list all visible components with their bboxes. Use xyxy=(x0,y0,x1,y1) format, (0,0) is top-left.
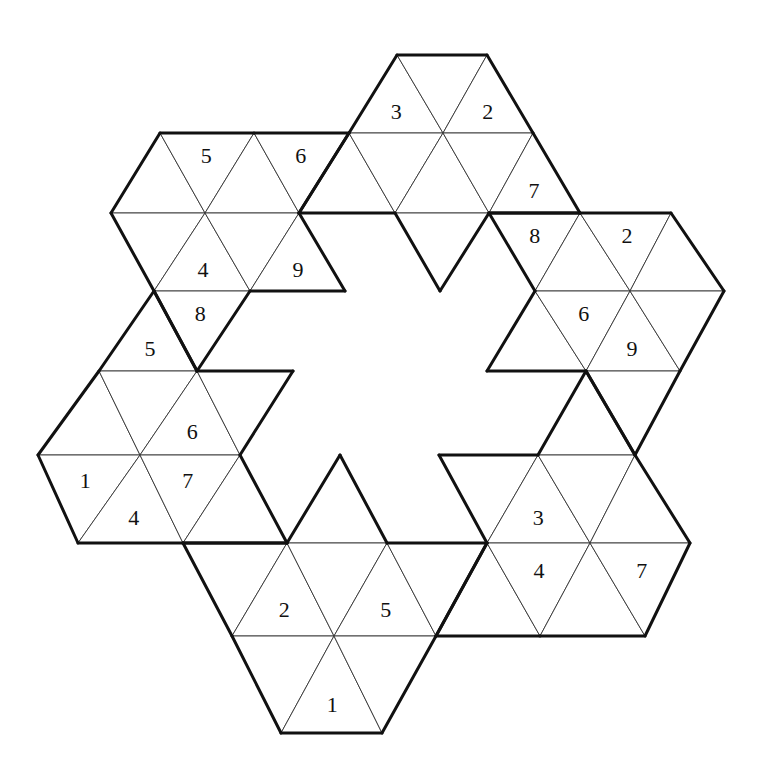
given-number: 8 xyxy=(195,301,206,326)
given-number: 5 xyxy=(380,597,391,622)
given-number: 6 xyxy=(578,301,589,326)
given-number: 9 xyxy=(627,336,638,361)
given-number: 4 xyxy=(534,558,545,583)
given-number: 6 xyxy=(187,419,198,444)
given-number: 2 xyxy=(279,597,290,622)
given-number: 3 xyxy=(391,99,402,124)
triangle-cell[interactable] xyxy=(287,455,387,543)
given-number: 2 xyxy=(622,223,633,248)
given-number: 1 xyxy=(80,468,91,493)
given-number: 4 xyxy=(198,257,209,282)
puzzle-board: 32756498561472513478269 xyxy=(0,0,758,778)
given-number: 2 xyxy=(482,99,493,124)
given-number: 7 xyxy=(529,178,540,203)
given-number: 9 xyxy=(293,257,304,282)
given-number: 8 xyxy=(529,223,540,248)
triangle-cell[interactable] xyxy=(395,213,489,291)
given-number: 7 xyxy=(182,468,193,493)
given-number: 3 xyxy=(533,505,544,530)
given-number: 5 xyxy=(145,336,156,361)
cells-layer xyxy=(38,55,724,733)
given-number: 7 xyxy=(636,558,647,583)
given-number: 1 xyxy=(327,692,338,717)
given-number: 5 xyxy=(201,143,212,168)
given-number: 4 xyxy=(128,505,139,530)
given-number: 6 xyxy=(295,143,306,168)
